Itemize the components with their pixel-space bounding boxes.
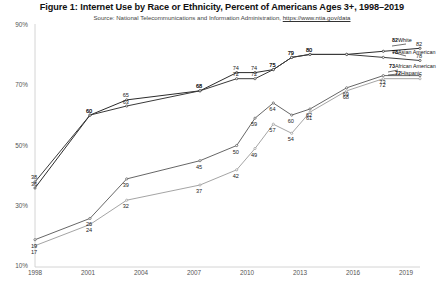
data-point-marker bbox=[34, 239, 36, 241]
data-point-label: 78 bbox=[416, 53, 422, 59]
data-point-label: 63 bbox=[123, 99, 129, 105]
data-point-label: 68 bbox=[196, 83, 202, 89]
data-point-label: 32 bbox=[123, 203, 129, 209]
series-lines bbox=[35, 48, 420, 245]
data-point-label: 49 bbox=[251, 152, 257, 158]
data-point-marker bbox=[199, 160, 201, 162]
series-line bbox=[35, 76, 420, 240]
endpoint-label-white: 82White bbox=[392, 37, 412, 43]
data-point-marker bbox=[382, 50, 384, 52]
data-point-label: 64 bbox=[269, 106, 275, 112]
series-line bbox=[35, 54, 420, 181]
data-point-label: 45 bbox=[196, 164, 202, 170]
endpoint-name-hispanic: Hispanic bbox=[401, 70, 422, 76]
data-point-label: 24 bbox=[86, 227, 92, 233]
data-point-label: 17 bbox=[31, 249, 37, 255]
data-point-marker bbox=[236, 78, 238, 80]
data-point-marker bbox=[419, 59, 421, 61]
endpoint-label-hispanic: 72Hispanic bbox=[395, 70, 422, 76]
axis-lines bbox=[35, 24, 420, 267]
chart-plot-svg bbox=[0, 0, 444, 285]
data-point-marker bbox=[291, 114, 293, 116]
data-point-marker bbox=[236, 169, 238, 171]
endpoint-label-african-american: 73African American bbox=[389, 63, 436, 69]
data-point-marker bbox=[126, 199, 128, 201]
data-point-label: 60 bbox=[288, 118, 294, 124]
data-point-marker bbox=[309, 53, 311, 55]
data-point-marker bbox=[272, 123, 274, 125]
series-line bbox=[35, 48, 420, 188]
data-point-label: 80 bbox=[306, 47, 312, 53]
data-point-marker bbox=[291, 56, 293, 58]
data-point-marker bbox=[34, 187, 36, 189]
data-point-label: 38 bbox=[31, 174, 37, 180]
data-point-label: 36 bbox=[31, 181, 37, 187]
data-point-marker bbox=[382, 75, 384, 77]
data-point-marker bbox=[382, 56, 384, 58]
data-point-marker bbox=[89, 114, 91, 116]
data-point-marker bbox=[236, 144, 238, 146]
data-point-label: 75 bbox=[269, 62, 275, 68]
data-point-marker bbox=[346, 53, 348, 55]
data-point-label: 57 bbox=[269, 127, 275, 133]
data-point-marker bbox=[272, 102, 274, 104]
data-point-marker bbox=[346, 87, 348, 89]
data-point-marker bbox=[254, 147, 256, 149]
data-point-marker bbox=[272, 69, 274, 71]
figure-internet-use-chart: Figure 1: Internet Use by Race or Ethnic… bbox=[0, 0, 444, 285]
endpoint-name-white: White bbox=[398, 37, 412, 43]
data-point-marker bbox=[89, 217, 91, 219]
endpoint-name-african-american: African American bbox=[395, 63, 436, 69]
data-point-label: 79 bbox=[288, 50, 294, 56]
data-point-marker bbox=[254, 78, 256, 80]
data-point-marker bbox=[254, 117, 256, 119]
data-point-label: 82 bbox=[416, 41, 422, 47]
data-point-marker bbox=[126, 178, 128, 180]
data-point-label: 39 bbox=[123, 182, 129, 188]
data-point-marker bbox=[199, 90, 201, 92]
data-point-label: 61 bbox=[306, 115, 312, 121]
data-point-marker bbox=[309, 108, 311, 110]
data-point-marker bbox=[126, 105, 128, 107]
data-point-label: 72 bbox=[251, 71, 257, 77]
data-point-label: 42 bbox=[233, 173, 239, 179]
data-point-label: 59 bbox=[251, 121, 257, 127]
data-point-label: 37 bbox=[196, 188, 202, 194]
endpoint-label-asian-american: 78Asian American bbox=[392, 49, 435, 55]
data-point-marker bbox=[419, 78, 421, 80]
data-point-label: 68 bbox=[343, 94, 349, 100]
data-point-label: 60 bbox=[86, 108, 92, 114]
data-point-label: 72 bbox=[379, 82, 385, 88]
series-line bbox=[35, 79, 420, 246]
data-point-label: 72 bbox=[233, 71, 239, 77]
data-point-label: 50 bbox=[233, 149, 239, 155]
data-point-marker bbox=[291, 132, 293, 134]
data-point-label: 54 bbox=[288, 136, 294, 142]
data-point-marker bbox=[199, 184, 201, 186]
